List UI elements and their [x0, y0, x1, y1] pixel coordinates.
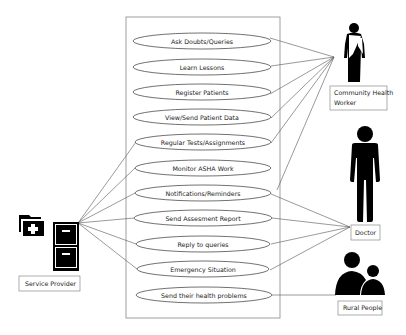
doctor-associations [270, 194, 350, 270]
use-case-label: Register Patients [175, 89, 228, 97]
use-case-label: Send Assesment Report [165, 215, 241, 223]
medical-folder-icon [19, 215, 44, 236]
use-case-register-patients[interactable]: Register Patients [133, 84, 271, 100]
use-case-send-health-problems[interactable]: Send their health problems [136, 287, 272, 303]
use-case-label: Notifications/Reminders [165, 190, 240, 197]
use-case-label: Emergency Situation [170, 266, 236, 274]
use-case-diagram: Ask Doubts/Queries Learn Lessons Registe… [0, 0, 406, 335]
use-case-label: View/Send Patient Data [165, 114, 239, 121]
use-case-send-assessment-report[interactable]: Send Assesment Report [134, 210, 272, 226]
use-case-label: Learn Lessons [180, 64, 225, 71]
doctor-label: Doctor [355, 229, 376, 236]
rural-people-label: Rural People [343, 304, 382, 312]
use-case-label: Monitor ASHA Work [172, 165, 234, 172]
service-provider-label: Service Provider [25, 280, 77, 287]
use-case-emergency-situation[interactable]: Emergency Situation [137, 261, 269, 277]
people-group-icon [335, 252, 385, 295]
use-case-label: Reply to queries [177, 241, 228, 249]
use-case-reply-to-queries[interactable]: Reply to queries [136, 236, 270, 252]
use-case-label: Ask Doubts/Queries [171, 38, 233, 45]
actor-community-health-worker[interactable]: Community Health Worker [330, 23, 393, 110]
chw-label-line1: Community Health [334, 89, 393, 97]
use-case-ask-doubts[interactable]: Ask Doubts/Queries [133, 33, 271, 49]
use-case-label: Send their health problems [161, 292, 247, 300]
use-case-monitor-asha-work[interactable]: Monitor ASHA Work [135, 160, 271, 176]
service-provider-associations [78, 142, 137, 269]
file-cabinet-icon [53, 222, 79, 271]
use-case-learn-lessons[interactable]: Learn Lessons [133, 59, 271, 75]
use-case-label: Regular Tests/Assignments [161, 139, 245, 147]
chw-label-line2: Worker [334, 99, 357, 106]
use-case-notifications-reminders[interactable]: Notifications/Reminders [135, 185, 271, 201]
use-case-regular-tests[interactable]: Regular Tests/Assignments [135, 134, 271, 150]
actor-rural-people[interactable]: Rural People [335, 252, 385, 315]
actor-doctor[interactable]: Doctor [350, 126, 380, 240]
use-case-view-send-patient-data[interactable]: View/Send Patient Data [133, 109, 271, 125]
actor-service-provider[interactable]: Service Provider [19, 215, 80, 291]
person-standing-icon [350, 126, 380, 222]
woman-in-saree-icon [344, 23, 365, 82]
